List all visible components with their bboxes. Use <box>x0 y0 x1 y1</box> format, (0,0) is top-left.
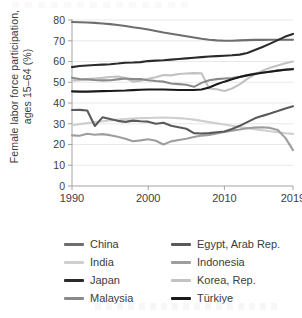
series-line-china <box>72 22 293 41</box>
y-tick-label-0: 0 <box>59 180 65 192</box>
cropped-text-artifact-top <box>12 2 192 8</box>
legend-item-indonesia[interactable]: Indonesia <box>171 254 302 270</box>
legend-swatch-turkiye <box>171 297 191 300</box>
legend-column-right: Egypt, Arab Rep.IndonesiaKorea, Rep.Türk… <box>171 236 302 308</box>
legend-swatch-malaysia <box>64 297 84 300</box>
series-line-india <box>72 118 293 134</box>
y-tick-label-60: 60 <box>53 55 65 67</box>
cropped-text-artifact-bottom <box>95 303 280 310</box>
y-tick-label-20: 20 <box>53 138 65 150</box>
legend-label-korea: Korea, Rep. <box>197 272 256 288</box>
y-tick-label-10: 10 <box>53 159 65 171</box>
legend-swatch-korea <box>171 279 191 282</box>
legend-item-korea[interactable]: Korea, Rep. <box>171 272 302 288</box>
y-tick-label-70: 70 <box>53 35 65 47</box>
legend-label-india: India <box>90 254 114 270</box>
y-tick-label-80: 80 <box>53 14 65 26</box>
legend-item-china[interactable]: China <box>64 236 167 252</box>
legend-swatch-india <box>64 261 84 264</box>
line-chart-svg: 010203040506070801990200020102019 <box>0 14 302 210</box>
y-tick-label-40: 40 <box>53 97 65 109</box>
legend-item-japan[interactable]: Japan <box>64 272 167 288</box>
legend-swatch-egypt <box>171 243 191 246</box>
legend-label-china: China <box>90 236 119 252</box>
legend-item-egypt[interactable]: Egypt, Arab Rep. <box>171 236 302 252</box>
x-tick-label-1990: 1990 <box>60 192 84 204</box>
legend-swatch-japan <box>64 279 84 282</box>
figure-container: Female labor force participation, ages 1… <box>0 0 302 318</box>
chart-legend: ChinaIndiaJapanMalaysia Egypt, Arab Rep.… <box>0 236 302 308</box>
x-tick-label-2000: 2000 <box>136 192 160 204</box>
legend-swatch-indonesia <box>171 261 191 264</box>
x-tick-label-2010: 2010 <box>212 192 236 204</box>
x-tick-label-2019: 2019 <box>281 192 302 204</box>
plot-area: Female labor force participation, ages 1… <box>0 14 302 210</box>
legend-item-india[interactable]: India <box>64 254 167 270</box>
series-line-korea-rep <box>72 62 293 91</box>
legend-label-egypt: Egypt, Arab Rep. <box>197 236 280 252</box>
legend-column-left: ChinaIndiaJapanMalaysia <box>64 236 167 308</box>
y-tick-label-30: 30 <box>53 118 65 130</box>
legend-label-japan: Japan <box>90 272 120 288</box>
y-tick-label-50: 50 <box>53 76 65 88</box>
legend-label-indonesia: Indonesia <box>197 254 245 270</box>
legend-swatch-china <box>64 243 84 246</box>
